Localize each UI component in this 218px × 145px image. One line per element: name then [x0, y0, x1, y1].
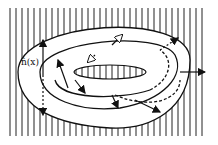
inner-hole: [74, 60, 146, 85]
ribbon-outline: [18, 27, 190, 128]
ribbon-diagram: [0, 0, 218, 145]
normal-vector-label: n̂(x): [21, 58, 39, 67]
